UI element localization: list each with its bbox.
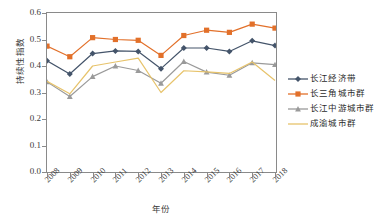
legend-item-4[interactable]: 成渝城市群	[288, 114, 388, 129]
legend-marker-icon	[288, 86, 308, 98]
data-point-marker	[90, 35, 95, 40]
data-point-marker	[272, 26, 276, 31]
legend-label: 成渝城市群	[310, 116, 356, 128]
data-point-marker	[249, 38, 255, 44]
data-point-marker	[112, 48, 118, 54]
data-point-marker	[47, 44, 50, 49]
chart-legend: 长江经济带长三角城市群长江中游城市群成渝城市群	[288, 69, 388, 129]
data-point-marker	[181, 58, 187, 63]
data-point-marker	[67, 54, 72, 59]
data-point-marker	[204, 28, 209, 33]
y-tick-label: 0.5	[30, 35, 41, 44]
data-point-marker	[158, 53, 163, 58]
data-point-marker	[136, 38, 141, 43]
data-point-marker	[272, 43, 276, 49]
plot-area	[46, 12, 277, 173]
legend-item-1[interactable]: 长江经济带	[288, 69, 388, 84]
series-2	[47, 22, 276, 60]
y-tick-label: 0.3	[30, 88, 41, 97]
legend-marker-icon	[288, 71, 308, 83]
y-tick-label: 0.0	[30, 167, 41, 176]
data-point-marker	[113, 63, 119, 68]
data-point-marker	[226, 48, 232, 54]
series-canvas	[47, 13, 276, 172]
y-tick-label: 0.6	[30, 8, 41, 17]
y-tick-label: 0.2	[30, 114, 41, 123]
data-point-marker	[181, 33, 186, 38]
legend-item-3[interactable]: 长江中游城市群	[288, 99, 388, 114]
y-tick-label: 0.4	[30, 61, 41, 70]
y-tick-label: 0.1	[30, 141, 41, 150]
line-chart: 持续性指数 0.00.10.20.30.40.50.6 200820092010…	[0, 0, 388, 219]
legend-label: 长江中游城市群	[310, 101, 374, 113]
legend-marker-icon	[288, 101, 308, 113]
series-line	[47, 24, 275, 57]
x-axis-title: 年份	[46, 202, 277, 214]
legend-marker-icon	[288, 116, 308, 128]
legend-label: 长江经济带	[310, 71, 356, 83]
data-point-marker	[227, 30, 232, 35]
legend-item-2[interactable]: 长三角城市群	[288, 84, 388, 99]
data-point-marker	[204, 45, 210, 51]
data-point-marker	[113, 37, 118, 42]
data-point-marker	[250, 22, 255, 27]
legend-label: 长三角城市群	[310, 86, 365, 98]
